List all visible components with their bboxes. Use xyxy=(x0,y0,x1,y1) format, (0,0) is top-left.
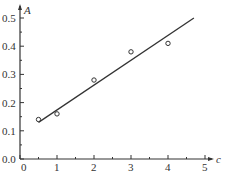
x-tick-label: 3 xyxy=(128,161,134,173)
fit-line xyxy=(39,18,194,122)
y-tick-label: 0.5 xyxy=(2,12,16,24)
x-tick-label: 5 xyxy=(202,161,208,173)
y-tick-label: 0.2 xyxy=(2,97,16,109)
y-tick-label: 0.1 xyxy=(2,125,16,137)
plot-area xyxy=(36,18,194,122)
y-axis: A 0.00.10.20.30.40.5 xyxy=(2,4,31,165)
y-tick-label: 0.3 xyxy=(2,68,16,80)
data-point xyxy=(166,41,170,45)
x-tick-label: 2 xyxy=(91,161,97,173)
x-axis: c 012345 xyxy=(20,153,221,173)
x-axis-arrow-icon xyxy=(208,157,214,161)
chart: c 012345 A 0.00.10.20.30.40.5 xyxy=(0,0,226,182)
x-tick-label: 0 xyxy=(21,161,27,173)
y-tick-label: 0.4 xyxy=(2,40,16,52)
x-tick-label: 1 xyxy=(54,161,60,173)
y-axis-arrow-icon xyxy=(18,4,22,10)
data-point xyxy=(129,50,133,54)
data-point xyxy=(55,112,59,116)
data-point xyxy=(92,78,96,82)
y-tick-label: 0.0 xyxy=(2,153,16,165)
x-tick-label: 4 xyxy=(165,161,171,173)
y-axis-label: A xyxy=(23,4,31,16)
x-axis-label: c xyxy=(216,153,221,165)
